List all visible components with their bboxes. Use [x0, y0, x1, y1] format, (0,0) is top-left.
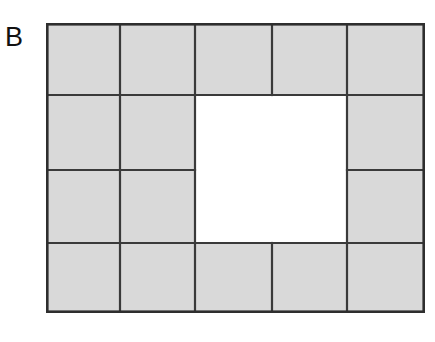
tile-r1c2 [120, 23, 195, 95]
tile-r2c2 [120, 95, 195, 170]
tile-r1c5 [347, 23, 425, 95]
tile-r1c4 [272, 23, 347, 95]
tiling-svg [46, 23, 425, 313]
tile-r4c1 [46, 243, 120, 313]
center-hole [195, 95, 347, 243]
tile-r4c2 [120, 243, 195, 313]
panel-label-b: B [5, 22, 24, 52]
tile-r2c1 [46, 95, 120, 170]
tile-r3c2 [120, 170, 195, 243]
tile-r4c4 [272, 243, 347, 313]
tile-r1c1 [46, 23, 120, 95]
tile-r3c5 [347, 170, 425, 243]
tile-r1c3 [195, 23, 272, 95]
tile-r4c5 [347, 243, 425, 313]
tile-r3c1 [46, 170, 120, 243]
tile-r4c3 [195, 243, 272, 313]
tiling-diagram [46, 23, 425, 313]
tile-r2c5 [347, 95, 425, 170]
figure-root: B [0, 0, 435, 342]
